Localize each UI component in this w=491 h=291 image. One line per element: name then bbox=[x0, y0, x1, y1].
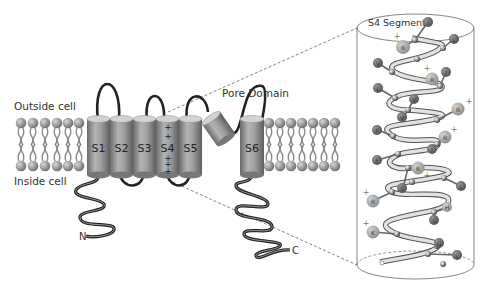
svg-text:I: I bbox=[431, 146, 433, 153]
segment-label-s5: S5 bbox=[184, 142, 198, 155]
ion-channel-diagram: S1 S2 S3 S4 S5 S6 + + + + + Outside cell… bbox=[0, 0, 491, 291]
svg-text:F: F bbox=[375, 127, 379, 134]
svg-text:+: + bbox=[424, 64, 431, 73]
svg-text:F: F bbox=[375, 157, 379, 164]
residue-f: F bbox=[372, 155, 382, 165]
residue-r: R+ bbox=[439, 125, 458, 144]
svg-text:R: R bbox=[430, 76, 434, 83]
svg-text:+: + bbox=[363, 188, 370, 197]
residue-k: K+ bbox=[363, 219, 380, 239]
residue-v: V bbox=[373, 58, 383, 68]
residue-r: R+ bbox=[412, 162, 431, 180]
svg-text:+: + bbox=[394, 32, 401, 41]
residue-l: L bbox=[452, 250, 462, 260]
svg-text:R: R bbox=[371, 198, 375, 205]
segment-label-s3: S3 bbox=[138, 142, 152, 155]
pore-helix bbox=[200, 109, 237, 148]
c-terminus-label: C bbox=[292, 245, 299, 256]
svg-text:S: S bbox=[400, 185, 404, 192]
residue-h: H bbox=[442, 202, 452, 212]
inside-cell-label: Inside cell bbox=[14, 175, 67, 187]
s4-segment-detail: S4 Segment bbox=[357, 14, 474, 279]
svg-text:H: H bbox=[445, 204, 450, 211]
svg-text:S: S bbox=[432, 217, 436, 224]
residue-l: L bbox=[373, 83, 383, 93]
c-terminus-tail bbox=[236, 175, 290, 258]
residue-s: S bbox=[429, 215, 439, 225]
n-terminus-tail bbox=[76, 175, 115, 237]
residue-v: V bbox=[397, 112, 407, 122]
residue-r: R+ bbox=[452, 97, 473, 116]
n-terminus-label: N bbox=[79, 231, 86, 242]
segment-label-s1: S1 bbox=[92, 142, 106, 155]
outside-cell-label: Outside cell bbox=[14, 100, 76, 112]
svg-text:I: I bbox=[427, 19, 429, 26]
svg-text:+: + bbox=[164, 131, 172, 141]
residue-f: F bbox=[372, 125, 382, 135]
segment-label-s6: S6 bbox=[245, 142, 259, 155]
pore-domain-label: Pore Domain bbox=[222, 87, 289, 99]
segment-label-s2: S2 bbox=[115, 142, 129, 155]
svg-text:R: R bbox=[443, 134, 447, 141]
svg-text:G: G bbox=[437, 240, 442, 247]
svg-text:+: + bbox=[164, 166, 172, 176]
residue-r: R+ bbox=[363, 188, 380, 208]
svg-text:I: I bbox=[445, 69, 447, 76]
svg-text:R: R bbox=[416, 165, 420, 172]
svg-text:+: + bbox=[424, 171, 431, 180]
svg-text:+: + bbox=[466, 97, 473, 106]
residue-l: L bbox=[449, 34, 459, 44]
svg-text:+: + bbox=[451, 125, 458, 134]
lipid-bilayer-right bbox=[264, 118, 341, 172]
residue-s: S bbox=[397, 183, 407, 193]
residue-v: V bbox=[409, 94, 419, 104]
svg-text:+: + bbox=[363, 219, 370, 228]
svg-text:R: R bbox=[456, 106, 460, 113]
residue-i: I bbox=[427, 144, 437, 154]
residue-i: I bbox=[441, 67, 451, 77]
residue-l: L bbox=[456, 181, 466, 191]
residue-g: G bbox=[434, 238, 444, 248]
lipid-bilayer-left bbox=[16, 118, 85, 172]
s4-segment-label: S4 Segment bbox=[368, 17, 426, 28]
residue-i: I bbox=[423, 17, 433, 27]
residue-r: R+ bbox=[394, 32, 410, 55]
svg-text:R: R bbox=[401, 44, 405, 51]
